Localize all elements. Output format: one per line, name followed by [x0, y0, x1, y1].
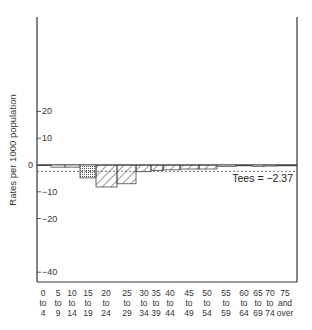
x-tick-label: 14: [67, 308, 77, 318]
x-tick-label: 30: [139, 288, 149, 298]
x-tick-label: 39: [151, 308, 161, 318]
bar-0-to-4: [37, 165, 51, 166]
x-tick-label: to: [54, 298, 61, 308]
x-tick-label: 35: [151, 288, 161, 298]
x-tick-label: to: [266, 298, 273, 308]
x-tick-label: 55: [221, 288, 231, 298]
x-tick-label: 44: [165, 308, 175, 318]
x-tick-label: 29: [122, 308, 132, 318]
bar-65-to-69: [252, 165, 264, 166]
x-tick-label: 25: [122, 288, 132, 298]
x-tick-label: 15: [83, 288, 93, 298]
x-tick-label: to: [152, 298, 159, 308]
x-tick-label: 49: [184, 308, 194, 318]
plot-frame: [37, 17, 297, 282]
x-tick-label: over: [277, 308, 294, 318]
x-tick-label: 10: [67, 288, 77, 298]
y-axis-title: Rates per 1000 population: [7, 94, 18, 205]
x-tick-label: 24: [101, 308, 111, 318]
x-tick-label: 0: [41, 288, 46, 298]
x-tick-label: to: [240, 298, 247, 308]
x-tick-label: 75: [280, 288, 290, 298]
x-tick-label: to: [203, 298, 210, 308]
bar-60-to-64: [236, 165, 252, 166]
bar-70-to-74: [264, 165, 277, 166]
x-tick-label: 40: [165, 288, 175, 298]
x-tick-label: 74: [265, 308, 275, 318]
x-tick-label: 64: [239, 308, 249, 318]
x-tick-label: to: [254, 298, 261, 308]
bar-25-to-29: [117, 165, 136, 184]
y-tick-label: 10: [42, 133, 52, 143]
x-tick-label: 45: [184, 288, 194, 298]
y-tick-label: −40: [42, 267, 57, 277]
bar-55-to-59: [217, 165, 236, 166]
x-tick-label: to: [185, 298, 192, 308]
bar-75-and-over: [277, 165, 297, 166]
x-tick-label: to: [39, 298, 46, 308]
x-tick-label: to: [84, 298, 91, 308]
x-tick-label: 34: [139, 308, 149, 318]
y-tick-label: −20: [42, 214, 57, 224]
x-tick-label: 60: [239, 288, 249, 298]
x-tick-label: to: [123, 298, 130, 308]
x-tick-label: 70: [265, 288, 275, 298]
bar-35-to-39: [151, 165, 163, 170]
x-tick-label: 5: [56, 288, 61, 298]
y-axis: 20100−10−20−40: [28, 106, 57, 277]
y-tick-label: −10: [42, 187, 57, 197]
x-tick-label: 4: [41, 308, 46, 318]
x-tick-label: 69: [253, 308, 263, 318]
x-tick-label: to: [140, 298, 147, 308]
bar-40-to-44: [163, 165, 180, 170]
x-tick-label: to: [166, 298, 173, 308]
x-tick-label: and: [278, 298, 292, 308]
bar-45-to-49: [180, 165, 199, 169]
x-tick-label: to: [222, 298, 229, 308]
bar-10-to-14: [65, 165, 80, 167]
x-tick-label: 9: [56, 308, 61, 318]
y-tick-label: 20: [42, 106, 52, 116]
x-tick-label: 54: [202, 308, 212, 318]
bar-5-to-9: [51, 165, 65, 167]
x-tick-label: 65: [253, 288, 263, 298]
x-tick-label: 59: [221, 308, 231, 318]
x-tick-label: to: [102, 298, 109, 308]
bar-chart: 20100−10−20−40 0to45to910to1415to1920to2…: [0, 0, 312, 330]
bar-30-to-34: [136, 165, 151, 172]
x-tick-label: 19: [83, 308, 93, 318]
x-tick-label: 20: [101, 288, 111, 298]
tees-annotation: Tees = −2.37: [232, 172, 293, 184]
bar-20-to-24: [96, 165, 117, 187]
x-axis: 0to45to910to1415to1920to2425to2930to3435…: [39, 288, 293, 318]
y-tick-label: 0: [28, 160, 33, 170]
x-tick-label: to: [68, 298, 75, 308]
bar-50-to-54: [199, 165, 217, 169]
x-tick-label: 50: [202, 288, 212, 298]
